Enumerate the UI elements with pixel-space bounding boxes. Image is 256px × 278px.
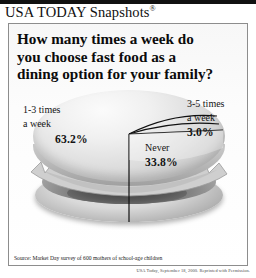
headline-line-3: dining option for your family? [17, 65, 241, 83]
callout-3-5-percent: 3.0% [187, 127, 225, 139]
callout-1-3-times: 1-3 times a week 63.2% [23, 102, 88, 146]
callout-never-percent: 33.8% [145, 157, 178, 169]
callout-3-5-line-2: a week [187, 112, 215, 123]
masthead: USA TODAY Snapshots® [5, 4, 251, 21]
page-title: How many times a week do you choose fast… [17, 30, 241, 83]
callout-1-3-line-1: 1-3 times [23, 104, 61, 115]
headline-line-2: you choose fast food as a [17, 48, 241, 66]
callout-3-5-line-1: 3-5 times [187, 98, 225, 109]
masthead-brand: USA TODAY Snapshots [5, 4, 150, 20]
callout-never-line-1: Never [145, 142, 169, 153]
source-note: Source: Market Day survey of 600 mothers… [14, 255, 162, 261]
callout-never: Never 33.8% [145, 140, 178, 168]
registered-trademark-icon: ® [150, 4, 156, 13]
callout-3-5-times: 3-5 times a week 3.0% [187, 96, 225, 139]
callout-1-3-percent: 63.2% [55, 134, 88, 146]
snapshot-panel: How many times a week do you choose fast… [8, 23, 248, 266]
headline-line-1: How many times a week do [17, 30, 241, 48]
callout-1-3-line-2: a week [23, 118, 51, 129]
credit-note: USA Today, September 18, 2000. Reprinted… [137, 268, 250, 273]
